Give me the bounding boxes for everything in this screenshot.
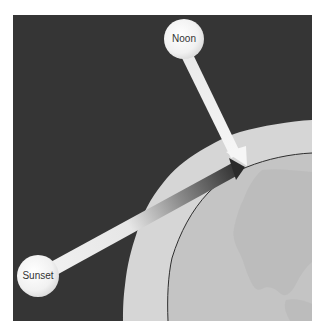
noon-label: Noon <box>172 33 196 44</box>
sunset-sun: Sunset <box>17 255 59 297</box>
south-america-landmass <box>285 299 312 321</box>
sunset-label: Sunset <box>22 270 53 281</box>
sunlight-atmosphere-diagram: Noon Sunset <box>0 0 327 333</box>
noon-sun: Noon <box>164 19 204 59</box>
